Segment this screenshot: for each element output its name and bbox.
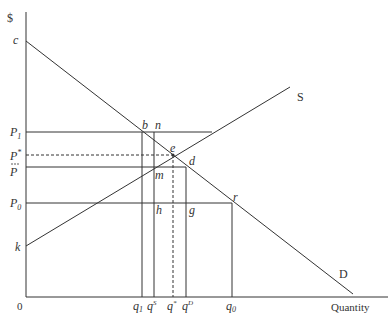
supply-label: S xyxy=(297,90,304,104)
x-axis-label: Quantity xyxy=(331,301,370,313)
point-h: h xyxy=(156,203,162,217)
origin-label: 0 xyxy=(17,300,23,312)
label-c: c xyxy=(13,33,19,47)
point-g: g xyxy=(189,203,195,217)
point-m: m xyxy=(155,168,164,182)
y-axis-label: $ xyxy=(7,11,13,25)
label-k: k xyxy=(15,240,21,254)
point-e: e xyxy=(170,141,176,155)
label-qd: qD xyxy=(182,299,193,313)
supply-demand-diagram: $ Quantity 0 S D c P1 P* P P0 k q1 qS q*… xyxy=(0,0,390,319)
label-p1: P1 xyxy=(9,125,21,141)
point-b: b xyxy=(142,118,148,132)
point-d: d xyxy=(189,154,196,168)
demand-label: D xyxy=(339,267,348,281)
label-qs: qS xyxy=(147,299,157,313)
label-qstar: q* xyxy=(167,299,177,313)
point-n: n xyxy=(155,118,161,132)
label-pbar: P xyxy=(9,165,18,179)
label-p0: P0 xyxy=(9,196,21,212)
point-r: r xyxy=(233,190,238,204)
label-q0: q0 xyxy=(226,299,236,314)
label-q1: q1 xyxy=(133,299,143,314)
label-pstar: P* xyxy=(9,148,21,163)
